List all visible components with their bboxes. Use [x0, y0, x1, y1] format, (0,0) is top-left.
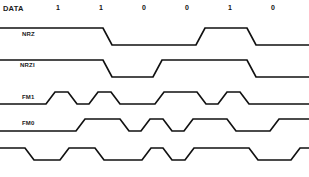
waveform-nrz	[0, 28, 309, 45]
waveform-fm1	[0, 92, 309, 104]
waveform-nrzi	[0, 60, 309, 77]
timing-diagram: DATA 1 1 0 0 1 0 NRZ NRZI FM1 FM0	[0, 0, 309, 177]
waveform-fm0	[0, 119, 309, 131]
waveform-fifth	[0, 148, 309, 160]
waveform-canvas	[0, 0, 309, 177]
